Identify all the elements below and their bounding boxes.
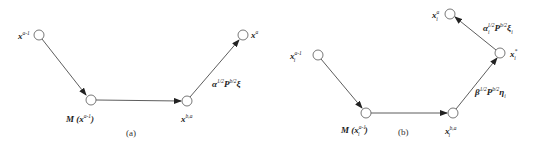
node-Mi: [361, 108, 371, 118]
vec: ξ: [237, 79, 241, 89]
exp: 1/2: [217, 78, 224, 84]
label-x-a: xa: [251, 30, 258, 40]
label-base: M (x: [341, 125, 359, 135]
node-x-prev: [34, 30, 44, 40]
mat-exp: b/2: [230, 78, 237, 84]
exp: 1/2: [480, 86, 487, 92]
caption-a: (a): [126, 128, 136, 138]
label-sup: a: [256, 29, 259, 35]
label-base: M (x: [66, 114, 84, 124]
label-xi-prev: xa-1i: [290, 51, 295, 63]
label-sup: a-1: [84, 113, 91, 119]
node-xi-ba: [448, 108, 458, 118]
label-M: M (xa-1): [66, 114, 94, 124]
label-edge-alpha-xi-i: αi1/2Pb/2ξi: [483, 23, 513, 35]
node-x-a: [238, 30, 248, 40]
label-sub: i: [294, 57, 296, 63]
label-sub: i: [448, 132, 450, 138]
node-xi-prev: [313, 50, 323, 60]
label-xi-ba: xb,ai: [445, 126, 450, 138]
edge-xprev-to-M: [42, 39, 86, 95]
label-x-ba: xb,a: [181, 114, 192, 124]
node-xi-a: [445, 9, 455, 19]
exp: 1/2: [488, 22, 495, 28]
label-xi-a: xai: [432, 10, 438, 22]
node-xi-star: [495, 48, 505, 58]
label-sup: b,a: [450, 125, 457, 131]
label-sub: i: [514, 55, 516, 61]
edge-xiba-to-xistar: [456, 58, 497, 109]
edge-xiprev-to-Mi: [321, 59, 362, 108]
label-Mi: M (xa-1i): [341, 125, 368, 137]
node-M: [86, 95, 96, 105]
label-sup: a: [437, 9, 440, 15]
label-sub: i: [436, 16, 438, 22]
label-edge-beta-eta: β1/2Pb/2ηi: [475, 87, 506, 99]
label-x-prev: xa-1: [18, 31, 30, 41]
edge-M-to-xba: [96, 100, 181, 101]
vec-sub: i: [504, 93, 506, 99]
label-xi-star: x*i: [510, 49, 516, 61]
greek-sub: i: [488, 29, 490, 35]
label-sup: *: [515, 48, 518, 54]
label-close: ): [365, 125, 368, 135]
vec-sub: i: [511, 29, 513, 35]
label-sup: a-1: [295, 50, 302, 56]
caption-b: (b): [398, 127, 409, 137]
label-sub: i: [358, 131, 360, 137]
node-x-ba: [182, 96, 192, 106]
label-edge-alpha-xi: α1/2Pb/2ξ: [212, 79, 241, 89]
label-close: ): [91, 114, 94, 124]
label-sup: a-1: [23, 30, 30, 36]
label-sup: b,a: [186, 113, 193, 119]
